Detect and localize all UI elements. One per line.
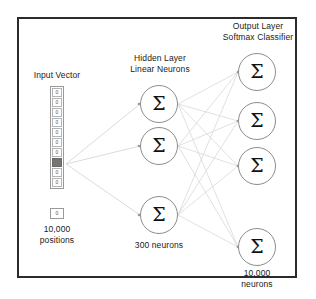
sigma-icon: Σ <box>250 62 263 81</box>
input-cell: 0 <box>52 168 62 177</box>
hidden-count-label: 300 neurons <box>126 240 192 251</box>
input-cell: 0 <box>52 128 62 137</box>
hidden-layer-label: Hidden Layer Linear Neurons <box>122 53 198 74</box>
input-cell: 0 <box>52 108 62 117</box>
sigma-icon: Σ <box>152 136 165 155</box>
hidden-neuron-3: Σ <box>140 196 178 234</box>
sigma-icon: Σ <box>250 237 263 256</box>
sigma-icon: Σ <box>250 156 263 175</box>
input-cell: 0 <box>52 98 62 107</box>
input-cell-active: 1 <box>52 158 62 167</box>
diagram-canvas: Input Vector 0 0 0 0 0 0 0 1 0 0 0 10,00… <box>0 0 316 299</box>
input-vector-cells: 0 0 0 0 0 0 0 1 0 0 <box>50 86 64 189</box>
hidden-neuron-2: Σ <box>140 127 178 165</box>
input-cell: 0 <box>52 138 62 147</box>
input-cell-detached: 0 <box>50 208 64 219</box>
output-neuron-4: Σ <box>238 228 276 266</box>
input-cell: 0 <box>52 118 62 127</box>
input-cell: 0 <box>52 148 62 157</box>
output-neuron-3: Σ <box>238 147 276 185</box>
input-vector-label: Input Vector <box>22 70 92 81</box>
input-count-label: 10,000 positions <box>25 224 89 245</box>
hidden-neuron-1: Σ <box>140 85 178 123</box>
output-neuron-1: Σ <box>238 53 276 91</box>
input-cell: 0 <box>52 178 62 187</box>
sigma-icon: Σ <box>152 94 165 113</box>
sigma-icon: Σ <box>152 205 165 224</box>
input-cell: 0 <box>52 88 62 97</box>
sigma-icon: Σ <box>250 111 263 130</box>
output-neuron-2: Σ <box>238 102 276 140</box>
output-layer-label: Output Layer Softmax Classifier <box>212 21 304 42</box>
output-count-label: 10,000 neurons <box>225 268 289 289</box>
